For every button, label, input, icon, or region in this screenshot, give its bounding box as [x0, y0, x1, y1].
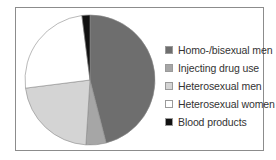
legend-label: Homo-/bisexual men [178, 44, 273, 56]
legend-swatch [165, 46, 173, 54]
legend-label: Blood products [178, 116, 247, 128]
legend-item: Homo-/bisexual men [165, 41, 275, 59]
legend-swatch [165, 100, 173, 108]
legend-swatch [165, 82, 173, 90]
chart-frame: Homo-/bisexual men Injecting drug use He… [15, 7, 264, 151]
legend-swatch [165, 64, 173, 72]
legend-item: Heterosexual men [165, 77, 275, 95]
legend-item: Heterosexual women [165, 95, 275, 113]
pie-chart [23, 13, 157, 147]
legend: Homo-/bisexual men Injecting drug use He… [165, 41, 275, 131]
pie-slice [26, 80, 90, 145]
pie-slice [25, 16, 90, 89]
legend-item: Blood products [165, 113, 275, 131]
legend-label: Heterosexual men [178, 80, 262, 92]
legend-label: Heterosexual women [178, 98, 275, 110]
legend-swatch [165, 118, 173, 126]
legend-item: Injecting drug use [165, 59, 275, 77]
legend-label: Injecting drug use [178, 62, 259, 74]
pie-slices [25, 15, 155, 145]
